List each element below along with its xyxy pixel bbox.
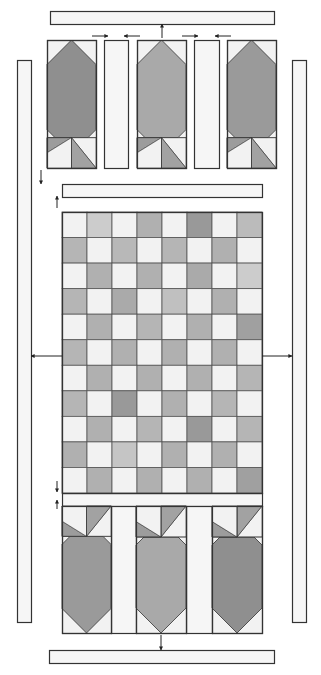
checker-square bbox=[87, 442, 112, 468]
checker-square bbox=[212, 391, 237, 417]
pieced-block bbox=[62, 506, 112, 634]
checker-square bbox=[237, 238, 262, 264]
checkerboard-center bbox=[62, 212, 263, 494]
checker-square bbox=[212, 467, 237, 493]
checker-square bbox=[112, 314, 137, 340]
checker-square bbox=[137, 314, 162, 340]
checker-square bbox=[87, 416, 112, 442]
checker-square bbox=[62, 212, 87, 238]
vertical-sash bbox=[105, 41, 129, 169]
checker-square bbox=[137, 263, 162, 289]
checker-square bbox=[237, 365, 262, 391]
checker-square bbox=[162, 391, 187, 417]
bottom-block-row bbox=[62, 506, 263, 634]
checker-square bbox=[162, 467, 187, 493]
checker-square bbox=[237, 263, 262, 289]
checker-square bbox=[212, 289, 237, 315]
checker-square bbox=[62, 442, 87, 468]
quilt-assembly-diagram bbox=[0, 0, 321, 675]
checker-square bbox=[87, 212, 112, 238]
checker-square bbox=[162, 212, 187, 238]
checker-square bbox=[187, 314, 212, 340]
pieced-block bbox=[47, 40, 97, 169]
checker-square bbox=[62, 416, 87, 442]
checker-square bbox=[237, 340, 262, 366]
checker-square bbox=[162, 442, 187, 468]
checker-square bbox=[112, 467, 137, 493]
checker-square bbox=[237, 416, 262, 442]
checker-square bbox=[212, 314, 237, 340]
checker-square bbox=[112, 289, 137, 315]
checker-square bbox=[137, 391, 162, 417]
checker-square bbox=[87, 340, 112, 366]
checker-square bbox=[112, 340, 137, 366]
checker-square bbox=[62, 314, 87, 340]
checker-square bbox=[237, 314, 262, 340]
checker-square bbox=[212, 263, 237, 289]
checker-square bbox=[187, 467, 212, 493]
bottom-horizontal-sash bbox=[63, 494, 263, 507]
checker-square bbox=[237, 212, 262, 238]
pieced-block bbox=[136, 506, 187, 634]
top-block-row bbox=[47, 40, 277, 169]
pieced-block bbox=[227, 40, 277, 169]
checker-square bbox=[87, 314, 112, 340]
checker-square bbox=[237, 289, 262, 315]
checker-square bbox=[112, 238, 137, 264]
checker-square bbox=[62, 263, 87, 289]
checker-square bbox=[87, 263, 112, 289]
checker-square bbox=[87, 365, 112, 391]
checker-square bbox=[187, 340, 212, 366]
checker-square bbox=[162, 340, 187, 366]
vertical-sash bbox=[112, 507, 137, 634]
pieced-block bbox=[137, 40, 187, 169]
right-border-strip bbox=[293, 61, 307, 623]
checker-square bbox=[87, 467, 112, 493]
checker-square bbox=[112, 263, 137, 289]
checker-square bbox=[62, 340, 87, 366]
checker-square bbox=[137, 289, 162, 315]
checker-square bbox=[137, 416, 162, 442]
checker-square bbox=[87, 238, 112, 264]
checker-square bbox=[112, 391, 137, 417]
checker-square bbox=[112, 212, 137, 238]
checker-square bbox=[87, 391, 112, 417]
checker-square bbox=[162, 314, 187, 340]
checker-square bbox=[187, 416, 212, 442]
checker-square bbox=[212, 416, 237, 442]
checker-square bbox=[162, 365, 187, 391]
checker-square bbox=[62, 365, 87, 391]
checker-square bbox=[112, 416, 137, 442]
checker-square bbox=[137, 467, 162, 493]
checker-square bbox=[137, 238, 162, 264]
checker-square bbox=[212, 238, 237, 264]
checker-square bbox=[137, 365, 162, 391]
checker-square bbox=[137, 442, 162, 468]
checker-square bbox=[237, 467, 262, 493]
checker-square bbox=[212, 442, 237, 468]
checker-square bbox=[137, 340, 162, 366]
top-border-strip bbox=[51, 12, 275, 25]
bottom-border-strip bbox=[50, 651, 275, 664]
checker-square bbox=[62, 238, 87, 264]
checker-square bbox=[62, 391, 87, 417]
top-horizontal-sash bbox=[63, 185, 263, 198]
checker-square bbox=[62, 289, 87, 315]
checker-square bbox=[187, 365, 212, 391]
vertical-sash bbox=[187, 507, 213, 634]
checker-square bbox=[187, 212, 212, 238]
left-border-strip bbox=[18, 61, 32, 623]
checker-square bbox=[137, 212, 162, 238]
checker-square bbox=[187, 263, 212, 289]
checker-square bbox=[187, 238, 212, 264]
checker-square bbox=[87, 289, 112, 315]
checker-square bbox=[187, 289, 212, 315]
checker-square bbox=[237, 391, 262, 417]
checker-square bbox=[212, 365, 237, 391]
checker-square bbox=[162, 238, 187, 264]
checker-square bbox=[187, 442, 212, 468]
checker-square bbox=[62, 467, 87, 493]
checker-square bbox=[112, 365, 137, 391]
checker-square bbox=[112, 442, 137, 468]
checker-square bbox=[187, 391, 212, 417]
